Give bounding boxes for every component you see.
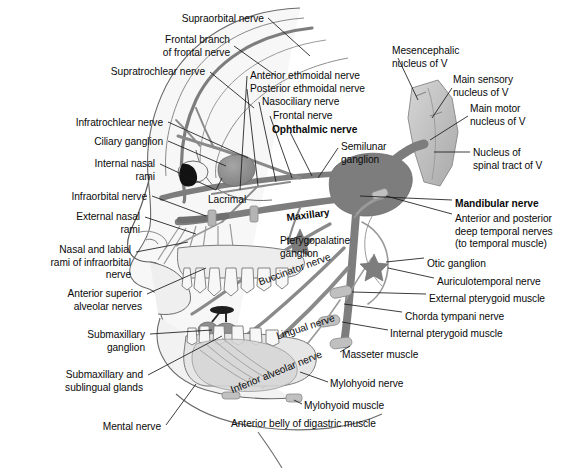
- leader-otic-ganglion: [386, 258, 424, 262]
- label-external-pterygoid-muscle: External pterygoid muscle: [429, 293, 545, 306]
- label-nasociliary-nerve: Nasociliary nerve: [262, 96, 339, 109]
- label-semilunar-ganglion: Semilunar ganglion: [341, 141, 386, 166]
- label-supratrochlear-nerve: Supratrochlear nerve: [0, 66, 205, 79]
- label-frontal-nerve: Frontal nerve: [273, 110, 332, 123]
- label-anterior-belly-of-digastric-muscle: Anterior belly of digastric muscle: [231, 418, 376, 431]
- label-mylohyoid-muscle: Mylohyoid muscle: [304, 400, 384, 413]
- leader-external-pterygoid: [352, 292, 426, 294]
- label-chorda-tympani-nerve: Chorda tympani nerve: [405, 311, 504, 324]
- label-internal-nasal-rami: Internal nasal rami: [0, 158, 155, 183]
- label-main-sensory-nucleus-of-v: Main sensory nucleus of V: [453, 74, 513, 99]
- mylohyoid-muscle-marker: [286, 394, 302, 402]
- label-nasal-and-labial-rami-of-infraorbital-nerve: Nasal and labial rami of infraorbital ne…: [0, 244, 131, 282]
- leader-mental-nerve: [166, 384, 196, 425]
- label-mental-nerve: Mental nerve: [0, 421, 161, 434]
- label-infratrochlear-nerve: Infratrochlear nerve: [0, 117, 163, 130]
- label-frontal-branch-of-frontal-nerve: Frontal branch of frontal nerve: [0, 34, 230, 59]
- label-ciliary-ganglion: Ciliary ganglion: [0, 136, 163, 149]
- label-anterior-ethmoidal-nerve: Anterior ethmoidal nerve: [250, 70, 360, 83]
- masseter-muscle-marker: [329, 337, 352, 350]
- label-lacrimal: Lacrimal: [208, 194, 246, 207]
- anatomical-figure: Supraorbital nerveFrontal branch of fron…: [0, 0, 570, 468]
- label-mylohyoid-nerve: Mylohyoid nerve: [330, 378, 403, 391]
- label-supraorbital-nerve: Supraorbital nerve: [0, 13, 264, 26]
- label-posterior-ethmoidal-nerve: Posterior ethmoidal nerve: [250, 83, 365, 96]
- leader-chorda-tympani: [344, 304, 402, 312]
- label-mesencephalic-nucleus-of-v: Mesencephalic nucleus of V: [392, 45, 459, 70]
- leader-ophthalmic-nerve: [290, 132, 312, 176]
- infraorbital-segment: [180, 216, 226, 220]
- infraorbital-foramen-marker-1: [208, 210, 216, 226]
- sublingual-gland-cap: [210, 306, 234, 314]
- label-masseter-muscle: Masseter muscle: [342, 349, 418, 362]
- neck-outline: [258, 432, 282, 468]
- label-main-motor-nucleus-of-v: Main motor nucleus of V: [470, 103, 525, 128]
- label-nucleus-of-spinal-tract-of-v: Nucleus of spinal tract of V: [473, 147, 542, 172]
- label-infraorbital-nerve: Infraorbital nerve: [0, 191, 147, 204]
- brainstem-group: [408, 80, 458, 186]
- label-ophthalmic-nerve: Ophthalmic nerve: [272, 124, 357, 137]
- label-anterior-superior-alveolar-nerves: Anterior superior alveolar nerves: [0, 288, 142, 313]
- label-anterior-and-posterior-deep-temporal-nerves: Anterior and posterior deep temporal ner…: [455, 213, 553, 251]
- label-submaxillary-ganglion: Submaxillary ganglion: [0, 329, 145, 354]
- label-external-nasal-rami: External nasal rami: [0, 211, 140, 236]
- label-submaxillary-and-sublingual-glands: Submaxillary and sublingual glands: [0, 369, 143, 394]
- brainstem-shape: [408, 80, 458, 186]
- label-otic-ganglion: Otic ganglion: [427, 258, 486, 271]
- label-auriculotemporal-nerve: Auriculotemporal nerve: [437, 276, 541, 289]
- label-internal-pterygoid-muscle: Internal pterygoid muscle: [390, 328, 503, 341]
- infraorbital-foramen-marker-2: [250, 206, 258, 222]
- label-mandibular-nerve: Mandibular nerve: [455, 198, 539, 211]
